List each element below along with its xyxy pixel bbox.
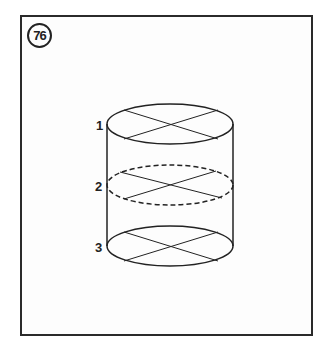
ellipse-middle-dashed xyxy=(107,165,233,205)
ellipse-top xyxy=(107,104,233,144)
ellipse-bottom xyxy=(107,226,233,266)
label-2: 2 xyxy=(95,179,102,194)
label-1: 1 xyxy=(96,118,103,133)
label-3: 3 xyxy=(95,240,102,255)
cylinder-diagram: 1 2 3 xyxy=(0,0,330,357)
